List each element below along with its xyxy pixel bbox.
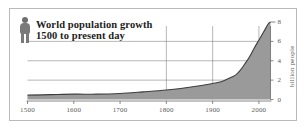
y-tick-label-0: 0 — [278, 96, 282, 104]
x-tick-label-1500: 1500 — [20, 106, 35, 114]
gridlines-horizontal — [28, 41, 271, 80]
y-tick-label-6: 6 — [278, 37, 282, 45]
x-tick-label-1700: 1700 — [113, 106, 128, 114]
x-axis-ticks — [28, 101, 259, 104]
y-tick-label-2: 2 — [278, 76, 282, 84]
x-tick-label-2000: 2000 — [252, 106, 267, 114]
x-tick-label-1900: 1900 — [205, 106, 220, 114]
x-tick-label-1600: 1600 — [66, 106, 81, 114]
y-axis-ticks — [271, 22, 276, 100]
y-tick-label-4: 4 — [278, 57, 282, 65]
figure-root: World population growth 1500 to present … — [0, 0, 306, 129]
y-tick-label-8: 8 — [278, 18, 282, 26]
x-tick-label-1800: 1800 — [159, 106, 174, 114]
y-axis-label: billion people — [288, 45, 296, 87]
